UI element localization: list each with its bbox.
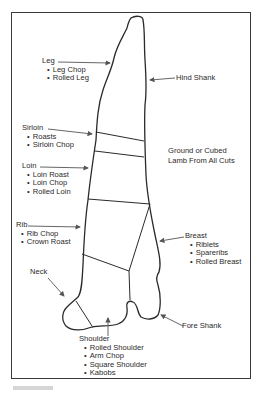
cut-item: Rolled Breast bbox=[190, 258, 241, 267]
cut-label-neck: Neck bbox=[30, 268, 47, 277]
cut-name: Neck bbox=[30, 268, 47, 277]
breast-arrow-icon bbox=[160, 237, 184, 241]
neck-arrow-icon bbox=[48, 278, 64, 296]
cut-label-fore-shank: Fore Shank bbox=[182, 322, 221, 331]
cut-item: Rolled Leg bbox=[47, 74, 89, 83]
cut-label-rib: Rib Rib Chop Crown Roast bbox=[16, 221, 71, 247]
cut-label-breast: Breast Riblets Spareribs Rolled Breast bbox=[185, 232, 241, 266]
cut-label-sirloin: Sirloin Roasts Sirloin Chop bbox=[22, 124, 74, 150]
cut-item: Rolled Loin bbox=[27, 188, 71, 197]
shoulder-foot-line bbox=[129, 271, 130, 300]
cut-label-shoulder: Shoulder Rolled Shoulder Arm Chop Square… bbox=[79, 335, 147, 378]
cut-item: Kabobs bbox=[84, 369, 147, 378]
cut-label-leg: Leg Leg Chop Rolled Leg bbox=[42, 57, 89, 83]
breast-divider bbox=[129, 204, 150, 271]
fore-shank-arrow-icon bbox=[161, 315, 183, 326]
cut-item: Sirloin Chop bbox=[27, 141, 74, 150]
sirloin-divider bbox=[96, 132, 144, 141]
hind-shank-arrow-icon bbox=[150, 78, 175, 80]
cut-label-hind-shank: Hind Shank bbox=[176, 74, 215, 83]
neck-divider bbox=[76, 301, 92, 326]
cut-item: Crown Roast bbox=[21, 238, 71, 247]
ground-lamb-note: Ground or Cubed Lamb From All Cuts bbox=[168, 146, 235, 165]
footer-bar bbox=[13, 386, 53, 390]
loin-divider bbox=[95, 151, 144, 157]
note-line-2: Lamb From All Cuts bbox=[168, 156, 235, 166]
cut-name: Hind Shank bbox=[176, 74, 215, 83]
cut-label-loin: Loin Loin Roast Loin Chop Rolled Loin bbox=[22, 162, 71, 196]
shoulder-divider bbox=[82, 254, 129, 271]
note-line-1: Ground or Cubed bbox=[168, 146, 235, 156]
cut-name: Fore Shank bbox=[182, 322, 221, 331]
rib-divider bbox=[88, 199, 150, 204]
